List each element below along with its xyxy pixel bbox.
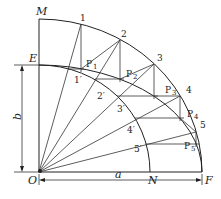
point-5: 5 — [200, 120, 206, 130]
svg-text:P: P — [126, 69, 132, 79]
point-3: 3 — [157, 53, 163, 63]
svg-text:P: P — [187, 109, 193, 119]
point-2: 2 — [121, 29, 127, 39]
label-E: E — [28, 52, 37, 65]
label-P2: P 2 — [126, 69, 137, 81]
svg-text:P: P — [86, 59, 92, 69]
svg-text:3: 3 — [172, 89, 176, 97]
label-N: N — [147, 174, 158, 187]
ellipse-construction-diagram: M E O N F a b 1 2 3 4 5 1′ 2′ 3′ 4′ 5′ P… — [0, 0, 221, 199]
label-M: M — [35, 5, 48, 18]
point-4: 4 — [186, 85, 192, 95]
point-4-prime: 4′ — [127, 125, 135, 135]
svg-text:4: 4 — [194, 113, 199, 121]
label-b: b — [11, 113, 24, 120]
point-3-prime: 3′ — [117, 104, 125, 114]
vertical-projection-lines — [81, 24, 196, 147]
svg-text:1: 1 — [93, 63, 97, 71]
label-P4: P 4 — [187, 109, 199, 121]
ellipse-curve — [39, 65, 202, 172]
svg-text:5: 5 — [191, 145, 195, 153]
label-P5: P 5 — [184, 141, 195, 153]
svg-text:P: P — [165, 85, 171, 95]
label-a: a — [115, 168, 122, 181]
svg-text:P: P — [184, 141, 190, 151]
point-2-prime: 2′ — [97, 91, 105, 101]
point-5-prime: 5′ — [134, 144, 142, 154]
point-1-prime: 1′ — [74, 75, 82, 85]
svg-text:2: 2 — [133, 73, 137, 81]
label-O: O — [28, 174, 37, 187]
label-P1: P 1 — [86, 59, 97, 71]
label-F: F — [204, 174, 213, 187]
radial-lines — [39, 24, 196, 172]
origin-dot — [38, 169, 42, 173]
point-1: 1 — [80, 13, 86, 23]
